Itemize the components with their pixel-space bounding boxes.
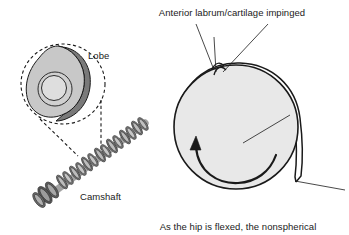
hip-joint-panel: Anterior labrum/cartilage impinged As th… <box>159 7 345 232</box>
top-annotation-label: Anterior labrum/cartilage impinged <box>159 7 305 18</box>
lower-right-leader-line <box>295 181 345 190</box>
femoral-head <box>174 65 298 189</box>
camshaft-analogy-panel: Lobe Camshaft <box>21 44 150 210</box>
cam-lobe-bore-inner <box>42 76 67 101</box>
cam-lobe-inset <box>26 46 90 121</box>
camshaft-label: Camshaft <box>80 191 121 202</box>
lobe-label: Lobe <box>88 50 109 61</box>
figure-root: Lobe Camshaft <box>0 0 349 235</box>
figure-caption: As the hip is flexed, the nonspherical <box>160 221 317 232</box>
diagram-canvas: Lobe Camshaft <box>0 0 349 235</box>
